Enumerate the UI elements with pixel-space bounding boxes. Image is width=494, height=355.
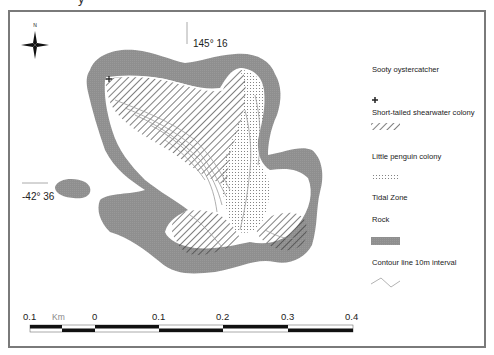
legend-contour-line-icon xyxy=(371,278,400,287)
islet-rock xyxy=(55,179,90,198)
north-arrow-icon: N xyxy=(21,22,49,59)
legend-rock-swatch xyxy=(371,237,400,245)
svg-text:N: N xyxy=(33,22,37,28)
scale-bar xyxy=(30,325,353,332)
legend-label-tidal-zone: Tidal Zone xyxy=(372,193,408,202)
legend-dots-swatch xyxy=(371,174,400,181)
scale-tick-0-1: 0.1 xyxy=(152,311,165,322)
legend-label-oystercatcher: Sooty oystercatcher xyxy=(372,65,439,74)
longitude-label: 145° 16 xyxy=(193,38,228,49)
scale-tick-0-3: 0.3 xyxy=(281,311,294,322)
legend-hatch-swatch xyxy=(371,123,400,130)
scale-tick-0-2: 0.2 xyxy=(216,311,229,322)
scale-tick-neg-0-1: 0.1 xyxy=(23,311,36,322)
map-canvas: N xyxy=(0,0,494,355)
legend-label-shearwater: Short-tailed shearwater colony xyxy=(372,108,475,117)
scale-tick-0-4: 0.4 xyxy=(345,311,358,322)
legend-label-contour: Contour line 10m interval xyxy=(372,258,456,267)
scale-tick-0: 0 xyxy=(92,311,97,322)
legend-label-penguin: Little penguin colony xyxy=(372,152,441,161)
legend-label-rock: Rock xyxy=(372,215,389,224)
scale-unit: Km xyxy=(52,312,65,322)
latitude-label: -42° 36 xyxy=(22,191,54,202)
legend-cross-icon xyxy=(372,97,378,103)
